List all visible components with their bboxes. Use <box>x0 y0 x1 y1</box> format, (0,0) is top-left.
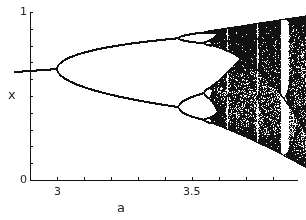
y-tick-label-1: 1 <box>20 6 27 17</box>
x-tick-label-3-5: 3.5 <box>183 186 201 197</box>
x-axis-label: a <box>117 201 125 214</box>
bifurcation-plot <box>0 0 306 220</box>
y-axis-label: x <box>8 88 16 101</box>
x-tick-label-3: 3 <box>54 186 61 197</box>
y-tick-label-0: 0 <box>20 174 27 185</box>
